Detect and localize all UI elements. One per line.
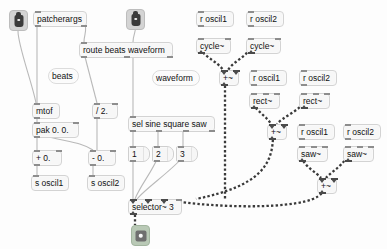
inlet[interactable] bbox=[248, 11, 254, 13]
object-box-roscil1c[interactable]: r oscil1 bbox=[297, 124, 335, 140]
outlet[interactable] bbox=[178, 160, 184, 162]
control-patch-cord[interactable] bbox=[18, 31, 36, 103]
outlet[interactable] bbox=[198, 25, 204, 27]
outlet[interactable] bbox=[35, 25, 41, 27]
inlet[interactable] bbox=[198, 38, 204, 40]
inlet[interactable] bbox=[33, 175, 39, 177]
inlet[interactable] bbox=[178, 146, 184, 148]
inlet[interactable] bbox=[225, 38, 231, 40]
inlet[interactable] bbox=[34, 150, 40, 152]
inlet[interactable] bbox=[130, 146, 136, 148]
inlet[interactable] bbox=[110, 150, 116, 152]
inlet[interactable] bbox=[154, 146, 160, 148]
object-box-roscil2c[interactable]: r oscil2 bbox=[343, 124, 381, 140]
signal-patch-cord[interactable] bbox=[168, 189, 323, 206]
object-box-roscil2a[interactable]: r oscil2 bbox=[246, 11, 284, 27]
message-box-msg3[interactable]: 3 bbox=[176, 146, 198, 162]
inlet-port-icon[interactable] bbox=[9, 10, 28, 31]
signal-patch-cord[interactable] bbox=[196, 135, 273, 199]
inlet[interactable] bbox=[368, 146, 374, 148]
object-box-plus0[interactable]: + 0. bbox=[32, 150, 62, 166]
object-box-roscil1b[interactable]: r oscil1 bbox=[249, 70, 287, 86]
outlet-port-icon[interactable] bbox=[131, 225, 150, 246]
inlet[interactable] bbox=[34, 103, 40, 105]
inlet[interactable] bbox=[357, 146, 363, 148]
inlet[interactable] bbox=[311, 146, 317, 148]
inlet[interactable] bbox=[73, 122, 79, 124]
object-box-plusC[interactable]: +~ bbox=[317, 178, 337, 194]
outlet[interactable] bbox=[81, 25, 87, 27]
outlet[interactable] bbox=[299, 138, 305, 140]
inlet[interactable] bbox=[248, 38, 254, 40]
outlet[interactable] bbox=[34, 136, 40, 138]
message-box-msg2[interactable]: 2 bbox=[152, 146, 174, 162]
inlet[interactable] bbox=[176, 199, 182, 201]
inlet[interactable] bbox=[301, 93, 307, 95]
object-box-route[interactable]: route beats waveform bbox=[79, 42, 173, 58]
outlet[interactable] bbox=[209, 130, 215, 132]
message-box-msg1[interactable]: 1 bbox=[128, 146, 150, 162]
object-box-minus0[interactable]: - 0. bbox=[88, 150, 116, 166]
inlet[interactable] bbox=[275, 38, 281, 40]
inlet[interactable] bbox=[263, 93, 269, 95]
object-box-cycle2[interactable]: cycle~ bbox=[246, 38, 281, 54]
inlet[interactable] bbox=[251, 70, 257, 72]
outlet[interactable] bbox=[251, 84, 257, 86]
outlet[interactable] bbox=[124, 56, 130, 58]
outlet[interactable] bbox=[34, 164, 40, 166]
inlet[interactable] bbox=[89, 175, 95, 177]
inlet[interactable] bbox=[198, 11, 204, 13]
outlet[interactable] bbox=[154, 160, 160, 162]
outlet[interactable] bbox=[81, 56, 87, 58]
object-box-plusA[interactable]: +~ bbox=[219, 70, 239, 86]
outlet[interactable] bbox=[130, 130, 136, 132]
outlet[interactable] bbox=[90, 164, 96, 166]
inlet[interactable] bbox=[112, 103, 118, 105]
object-box-rect1[interactable]: rect~ bbox=[249, 93, 280, 109]
outlet[interactable] bbox=[301, 84, 307, 86]
inlet[interactable] bbox=[322, 146, 328, 148]
inlet[interactable] bbox=[35, 11, 41, 13]
inlet[interactable] bbox=[94, 103, 100, 105]
object-box-rect2[interactable]: rect~ bbox=[299, 93, 330, 109]
inlet[interactable] bbox=[274, 93, 280, 95]
inlet[interactable] bbox=[345, 124, 351, 126]
outlet[interactable] bbox=[130, 160, 136, 162]
inlet[interactable] bbox=[313, 93, 319, 95]
control-patch-cord[interactable] bbox=[135, 157, 158, 199]
inlet[interactable] bbox=[251, 93, 257, 95]
inlet[interactable] bbox=[345, 146, 351, 148]
object-box-saw2[interactable]: saw~ bbox=[343, 146, 374, 162]
object-box-plusB[interactable]: +~ bbox=[267, 124, 287, 140]
object-box-selector[interactable]: selector~ 3 bbox=[128, 199, 182, 215]
outlet[interactable] bbox=[183, 130, 189, 132]
outlet[interactable] bbox=[248, 25, 254, 27]
object-box-div2[interactable]: / 2. bbox=[92, 103, 118, 119]
object-box-mtof[interactable]: mtof bbox=[32, 103, 60, 119]
comment-box-waveform[interactable]: waveform bbox=[152, 70, 200, 86]
inlet[interactable] bbox=[56, 150, 62, 152]
inlet[interactable] bbox=[34, 122, 40, 124]
control-patch-cord[interactable] bbox=[84, 53, 97, 103]
outlet[interactable] bbox=[156, 130, 162, 132]
inlet[interactable] bbox=[324, 93, 330, 95]
inlet[interactable] bbox=[90, 150, 96, 152]
object-box-pak[interactable]: pak 0. 0. bbox=[32, 122, 79, 138]
outlet[interactable] bbox=[167, 56, 173, 58]
inlet[interactable] bbox=[130, 116, 136, 118]
outlet[interactable] bbox=[34, 117, 40, 119]
outlet[interactable] bbox=[345, 138, 351, 140]
inlet[interactable] bbox=[301, 70, 307, 72]
outlet[interactable] bbox=[94, 117, 100, 119]
inlet[interactable] bbox=[299, 146, 305, 148]
comment-box-beats[interactable]: beats bbox=[48, 68, 79, 84]
inlet[interactable] bbox=[81, 42, 87, 44]
object-box-soscil1[interactable]: s oscil1 bbox=[31, 175, 69, 191]
object-box-soscil2[interactable]: s oscil2 bbox=[87, 175, 125, 191]
object-box-roscil2b[interactable]: r oscil2 bbox=[299, 70, 337, 86]
inlet-port-icon[interactable] bbox=[126, 9, 145, 30]
object-box-sel[interactable]: sel sine square saw bbox=[128, 116, 215, 132]
control-patch-cord[interactable] bbox=[137, 157, 183, 199]
inlet[interactable] bbox=[299, 124, 305, 126]
object-box-cycle1[interactable]: cycle~ bbox=[196, 38, 231, 54]
